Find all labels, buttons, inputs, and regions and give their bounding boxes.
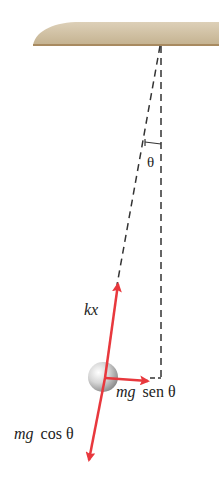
ceiling [33,22,219,45]
angle-label: θ [147,154,154,170]
spring-force-arrow [105,284,118,378]
radial-force-label: mg cos θ [14,425,74,443]
pendulum-diagram: θ kx mg sen θ mg cos θ [0,0,219,484]
tangential-force-label: mg sen θ [116,383,176,401]
angle-marker: θ [145,139,161,170]
spring-force-label: kx [84,301,98,318]
